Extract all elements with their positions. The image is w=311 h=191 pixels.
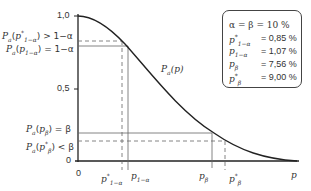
x-label-p1-alpha: p1−α — [131, 171, 150, 185]
x-label-p1-alpha-star: p*1−α — [101, 171, 123, 188]
x-label-p-beta-star: p*β — [229, 171, 241, 188]
ref-label-p-beta: Pa(pβ) = β — [26, 124, 71, 138]
legend-row-p-beta-star: p*β= 9,00 % — [229, 72, 241, 86]
x-axis-label-p: p — [291, 170, 297, 180]
legend-row-p-beta: pβ= 7,56 % — [229, 59, 238, 71]
legend-row-alpha-beta: α = β = 10 % — [229, 20, 290, 30]
x-label-p-beta: pβ — [199, 171, 208, 185]
x-tick-label-0: 0 — [76, 168, 81, 178]
y-tick-label-05: 0,5 — [57, 83, 70, 93]
y-tick-label-0: 0 — [66, 155, 71, 165]
curve-label: Pa(p) — [161, 64, 183, 78]
legend-row-p1-alpha: p1−α= 1,07 % — [229, 46, 248, 58]
y-tick-label-1: 1,0 — [57, 10, 70, 20]
ref-label-p1-alpha: Pa(p1−α) = 1−α — [6, 44, 74, 58]
legend-box: α = β = 10 % p*1−α= 0,85 % p1−α= 1,07 % … — [222, 10, 302, 88]
ref-label-p-beta-star: Pa(p*β) < β — [26, 139, 74, 156]
legend-row-p1-alpha-star: p*1−α= 0,85 % — [229, 33, 251, 47]
ref-label-p1-alpha-star: Pa(p*1−α) > 1−α — [2, 28, 73, 45]
